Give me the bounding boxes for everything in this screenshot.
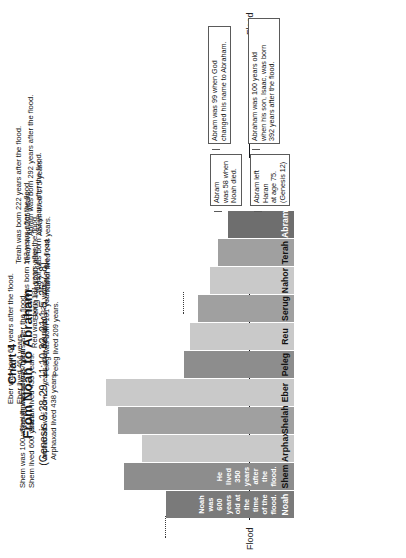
bar-shelah-label: Shelah: [280, 407, 290, 434]
bar-reu-label: Reu: [280, 323, 290, 350]
bar-shem-note: He lived 350 years after the flood.: [215, 465, 278, 488]
bar-eber-label: Eber: [280, 379, 290, 406]
bar-serug-label: Serug: [280, 295, 290, 322]
callout-isaac-born[interactable]: Abraham was 100 years old when his son, …: [248, 18, 280, 144]
bar-peleg-label: Peleg: [280, 351, 290, 378]
annotation-abram-line2: Abram lived 175 years.: [35, 95, 44, 236]
callout-abram-58-line3: Noah died.: [230, 157, 239, 203]
bar-noah-label: Noah: [280, 491, 290, 518]
callout-abram-haran[interactable]: Abram left Haran at age 75. (Genesis 12): [250, 154, 290, 206]
bar-eber[interactable]: Eber: [106, 379, 294, 406]
bar-noah-note: Noah was 600 years old at the time of th…: [197, 493, 278, 516]
chart-canvas: Chart 4 From Noah to Abraham (Genesis 9:…: [0, 0, 406, 558]
annotation-abram-line1: Abram was born 292 years after the flood…: [26, 95, 35, 236]
callout-tick-3: [212, 149, 220, 150]
bar-nahor-label: Nahor: [280, 267, 290, 294]
bar-reu[interactable]: Reu: [190, 323, 294, 350]
flood-label-left: Flood: [245, 527, 255, 550]
bar-shem[interactable]: He lived 350 years after the flood. Shem: [124, 463, 294, 490]
chart-page: Chart 4 From Noah to Abraham (Genesis 9:…: [0, 0, 406, 558]
bar-arphaxad[interactable]: Arphaxad: [142, 435, 294, 462]
leader-dots-peleg: [183, 292, 184, 314]
callout-tick-2: [254, 211, 262, 212]
callout-abram-99[interactable]: Abram was 99 when God changed his name t…: [208, 26, 231, 144]
bar-serug[interactable]: Serug: [198, 295, 294, 322]
annotation-terah-line1: Terah was born 222 years after the flood…: [14, 126, 23, 264]
bar-arphaxad-label: Arphaxad: [280, 435, 290, 462]
bar-peleg[interactable]: Peleg: [184, 351, 294, 378]
callout-isaac-born-line3: 392 years after the flood.: [268, 21, 277, 141]
callout-abram-haran-line4: (Genesis 12): [279, 157, 288, 203]
annotation-peleg-line2: Peleg lived 209 years.: [51, 238, 60, 376]
leader-dots-noah: [165, 516, 166, 538]
bar-shem-label: Shem: [280, 463, 290, 490]
annotation-abram: Abram was born 292 years after the flood…: [26, 95, 45, 236]
bar-shelah[interactable]: Shelah: [118, 407, 294, 434]
bar-noah[interactable]: Noah was 600 years old at the time of th…: [166, 491, 294, 518]
callout-abram-58[interactable]: Abram was 58 when Noah died.: [210, 154, 242, 206]
annotation-nahor-line2: Nahor lived 148 years.: [43, 152, 52, 292]
callout-abram-99-line2: changed his name to Abraham.: [220, 29, 229, 141]
bar-terah[interactable]: Terah: [218, 239, 294, 266]
callout-tick-1: [214, 211, 222, 212]
bar-nahor[interactable]: Nahor: [210, 267, 294, 294]
callout-tick-4: [252, 149, 260, 150]
bar-abram-label: Abram: [280, 211, 290, 238]
bar-abram[interactable]: Abram: [228, 211, 294, 238]
bar-terah-label: Terah: [280, 239, 290, 266]
annotation-eber-line1: Eber was born 67 years after the flood.: [6, 273, 15, 404]
